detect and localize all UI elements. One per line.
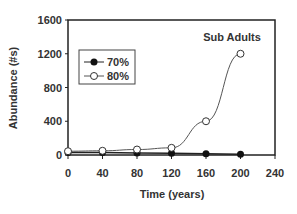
x-tick-label: 80 (131, 167, 143, 179)
series-70-point (203, 150, 210, 157)
y-tick-label: 1600 (38, 14, 62, 26)
x-tick-label: 240 (266, 167, 284, 179)
series-80-point (65, 148, 72, 155)
series-80-point (168, 144, 175, 151)
x-tick-label: 200 (231, 167, 249, 179)
x-tick-label: 0 (65, 167, 71, 179)
chart-title: Sub Adults (203, 31, 261, 43)
legend-label-70: 70% (107, 56, 129, 68)
series-70-point (237, 151, 244, 158)
legend-label-80: 80% (107, 70, 129, 82)
y-tick-label: 400 (44, 115, 62, 127)
y-tick-label: 800 (44, 82, 62, 94)
series-80-point (237, 50, 244, 57)
series-80-point (203, 118, 210, 125)
series-80-point (99, 147, 106, 154)
y-axis-label: Abundance (#s) (7, 46, 19, 129)
open-circle-marker-icon (91, 73, 98, 80)
series-70-line (68, 152, 241, 154)
series-80-point (134, 146, 141, 153)
x-tick-label: 120 (162, 167, 180, 179)
x-tick-label: 160 (197, 167, 215, 179)
legend: 70% 80% (79, 50, 135, 84)
y-tick-label: 0 (56, 149, 62, 161)
x-axis-label: Time (years) (140, 188, 205, 200)
filled-circle-marker-icon (91, 59, 98, 66)
x-tick-label: 40 (96, 167, 108, 179)
line-chart: 04008001200160004080120160200240 Sub Adu… (0, 0, 297, 214)
y-tick-label: 1200 (38, 48, 62, 60)
